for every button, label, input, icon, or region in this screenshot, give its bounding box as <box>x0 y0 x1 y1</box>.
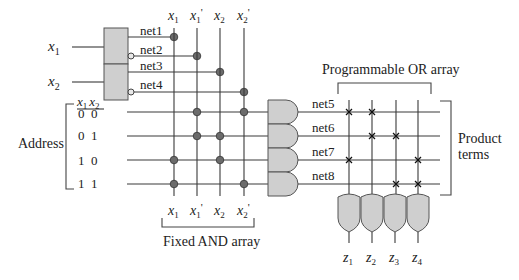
product-terms-label-2: terms <box>458 147 489 162</box>
or-gate-z1 <box>338 194 360 232</box>
col-label-x1-bottom: x1 <box>167 203 179 220</box>
and-dot-r3-x2 <box>216 156 224 164</box>
or-gate-z2 <box>361 194 383 232</box>
net3-label: net3 <box>140 58 162 73</box>
or-array-header: Programmable OR array <box>322 62 460 94</box>
or-array-columns <box>349 100 418 210</box>
and-dot-r2-x2 <box>216 132 224 140</box>
diagram-canvas: x1 x2 net1 net2 net3 net4 x1 x1' x2 x <box>0 0 519 280</box>
inverter-bubble-net4 <box>128 89 134 95</box>
address-row-00: 0 0 <box>78 106 98 121</box>
output-labels: z1 z2 z3 z4 <box>342 250 422 267</box>
col-label-x2p-top: x2' <box>236 6 250 25</box>
output-z1: z1 <box>342 250 353 267</box>
and-dot-r4-x1 <box>170 180 178 188</box>
output-z3: z3 <box>388 250 399 267</box>
output-z2: z2 <box>365 250 376 267</box>
address-row-10: 1 0 <box>78 153 98 168</box>
and-dot-r2-x1p <box>193 132 201 140</box>
input-x1: x1 <box>47 38 104 57</box>
input-buffer-block <box>104 28 128 100</box>
programmable-or-label: Programmable OR array <box>322 62 460 77</box>
product-terms-bracket <box>440 101 451 195</box>
net7-label: net7 <box>312 144 335 159</box>
input-x2: x2 <box>47 73 104 92</box>
and-gate-2 <box>268 124 298 148</box>
or-gate-z4 <box>407 194 429 232</box>
col-label-x2p-bottom: x2' <box>236 201 250 220</box>
and-column-labels-bottom: x1 x1' x2 x2' Fixed AND array <box>162 201 260 249</box>
decoder-nets: net1 net2 net3 net4 <box>128 23 248 96</box>
output-z4: z4 <box>411 250 422 267</box>
or-gate-z3 <box>384 194 406 232</box>
product-terms-label-1: Product <box>458 131 502 146</box>
and-dot-r1-x1p <box>193 108 201 116</box>
net1-label: net1 <box>140 23 162 38</box>
address-bracket <box>66 104 74 189</box>
net6-label: net6 <box>312 120 335 135</box>
address-label: Address <box>18 136 64 151</box>
programmable-or-bracket <box>338 83 431 94</box>
buffer-x1 <box>104 28 128 64</box>
and-gate-1 <box>268 100 298 124</box>
col-label-x1-top: x1 <box>167 8 179 25</box>
fixed-and-label: Fixed AND array <box>163 234 260 249</box>
col-label-x2-top: x2 <box>213 8 225 25</box>
and-column-labels-top: x1 x1' x2 x2' <box>167 6 250 25</box>
net2-label: net2 <box>140 42 162 57</box>
input-x1-label: x1 <box>47 38 60 57</box>
buffer-x2 <box>104 64 128 100</box>
and-gate-3 <box>268 148 298 172</box>
and-gate-4 <box>268 172 298 196</box>
product-terms-annotation: Product terms <box>440 101 502 195</box>
net4-label: net4 <box>140 77 163 92</box>
address-row-01: 0 1 <box>78 128 98 143</box>
and-gates <box>268 100 298 196</box>
col-label-x2-bottom: x2 <box>213 203 225 220</box>
pla-diagram: x1 x2 net1 net2 net3 net4 x1 x1' x2 x <box>0 0 519 280</box>
and-connection-dots <box>170 108 248 188</box>
and-dot-r4-x2p <box>240 180 248 188</box>
col-label-x1p-top: x1' <box>189 6 203 25</box>
or-gates <box>338 194 429 243</box>
and-dot-r3-x1 <box>170 156 178 164</box>
inverter-bubble-net2 <box>128 53 134 59</box>
net8-label: net8 <box>312 168 334 183</box>
col-label-x1p-bottom: x1' <box>189 201 203 220</box>
or-connection-marks <box>346 109 421 187</box>
input-x2-label: x2 <box>47 73 60 92</box>
net5-label: net5 <box>312 96 334 111</box>
address-row-11: 1 1 <box>78 176 98 191</box>
address-table: Address x1x2 0 0 0 1 1 0 1 1 <box>18 94 104 191</box>
and-dot-r1-x2p <box>240 108 248 116</box>
